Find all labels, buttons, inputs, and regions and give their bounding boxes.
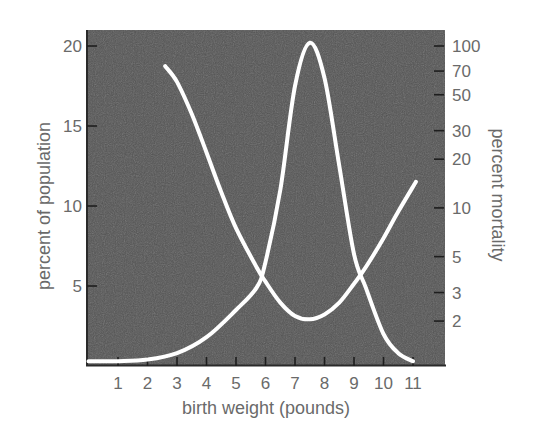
left-y-tick-label: 5 bbox=[73, 277, 82, 296]
x-tick-label: 5 bbox=[231, 374, 240, 393]
x-axis-title: birth weight (pounds) bbox=[182, 398, 350, 418]
right-y-tick-label: 100 bbox=[452, 37, 480, 56]
right-y-tick-label: 2 bbox=[452, 312, 461, 331]
x-tick-label: 3 bbox=[172, 374, 181, 393]
x-tick-label: 9 bbox=[349, 374, 358, 393]
right-y-tick-label: 30 bbox=[452, 122, 471, 141]
birth-weight-chart: 1234567891011 5101520 2351020305070100 b… bbox=[0, 0, 535, 448]
x-tick-label: 7 bbox=[290, 374, 299, 393]
right-y-tick-label: 3 bbox=[452, 284, 461, 303]
x-tick-label: 1 bbox=[113, 374, 122, 393]
left-y-tick-label: 10 bbox=[63, 197, 82, 216]
right-y-tick-label: 5 bbox=[452, 248, 461, 267]
right-y-axis-title: percent mortality bbox=[488, 128, 508, 261]
left-y-tick-label: 20 bbox=[63, 37, 82, 56]
left-y-tick-label: 15 bbox=[63, 117, 82, 136]
left-y-axis-title: percent of population bbox=[34, 122, 54, 290]
x-tick-label: 10 bbox=[374, 374, 393, 393]
x-tick-label: 11 bbox=[404, 374, 422, 393]
right-y-tick-label: 20 bbox=[452, 150, 471, 169]
right-y-tick-label: 10 bbox=[452, 199, 471, 218]
right-y-tick-label: 50 bbox=[452, 86, 471, 105]
plot-area bbox=[87, 30, 445, 365]
x-tick-label: 6 bbox=[261, 374, 270, 393]
x-tick-label: 2 bbox=[143, 374, 152, 393]
right-y-tick-label: 70 bbox=[452, 62, 471, 81]
x-tick-label: 8 bbox=[320, 374, 329, 393]
x-tick-label: 4 bbox=[202, 374, 211, 393]
